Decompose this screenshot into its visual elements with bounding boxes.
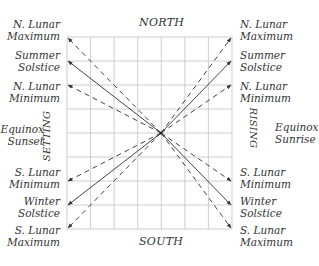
south-label: SOUTH	[139, 235, 183, 248]
left-label-n-lunar-max: N. Lunar Maximum	[0, 18, 60, 42]
right-label-s-lunar-min: S. Lunar Minimum	[240, 166, 291, 190]
left-label-s-lunar-min: S. Lunar Minimum	[0, 166, 60, 190]
right-label-s-lunar-max: S. Lunar Maximum	[240, 224, 293, 248]
north-label: NORTH	[139, 16, 184, 29]
left-label-winter-solstice: Winter Solstice	[0, 195, 60, 219]
left-label-equinox-sunset: Equinox Sunset	[0, 123, 44, 147]
right-label-n-lunar-min: N. Lunar Minimum	[240, 80, 291, 104]
solar-lunar-azimuth-diagram: NORTH SOUTH SETTING RISING N. Lunar Maxi…	[0, 0, 319, 266]
grid	[67, 37, 232, 229]
left-label-s-lunar-max: S. Lunar Maximum	[0, 224, 60, 248]
summer-solstice-sunrise-line	[161, 61, 231, 133]
left-label-n-lunar-min: N. Lunar Minimum	[0, 80, 60, 104]
observer-point	[159, 131, 162, 134]
right-label-n-lunar-max: N. Lunar Maximum	[240, 18, 293, 42]
right-label-equinox-sunrise: Equinox Sunrise	[275, 121, 319, 145]
winter-solstice-sunrise-line	[161, 133, 231, 205]
right-label-summer-solstice: Summer Solstice	[240, 49, 285, 73]
rising-label: RISING	[248, 108, 259, 149]
n-lunar-max-rise-line	[161, 38, 231, 133]
s-lunar-max-rise-line	[161, 133, 231, 228]
right-label-winter-solstice: Winter Solstice	[240, 195, 282, 219]
left-label-summer-solstice: Summer Solstice	[0, 49, 60, 73]
